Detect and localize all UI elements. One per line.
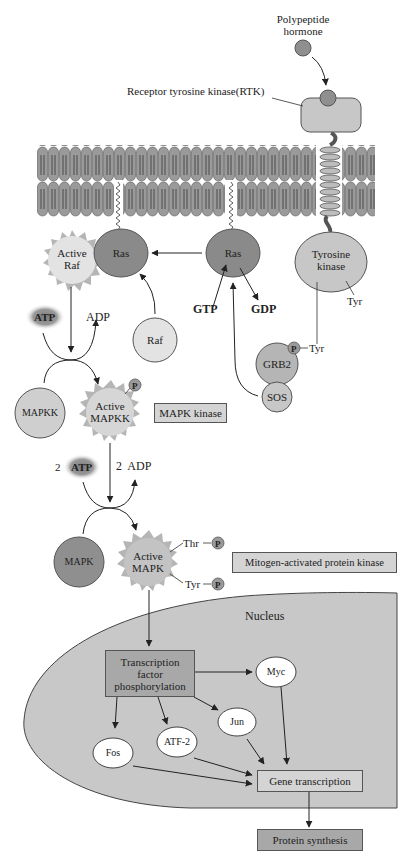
bound-hormone-icon [320, 90, 336, 106]
p-grb2-label: P [291, 343, 297, 355]
fos-label: Fos [93, 747, 133, 759]
mapk-kinase-box: MAPK kinase [154, 403, 227, 423]
jun-label: Jun [218, 716, 256, 728]
hormone-label-line1: Polypeptide [268, 13, 338, 25]
tf-line3: phosphorylation [114, 680, 186, 692]
atp-label: ATP [34, 311, 55, 323]
tyrosine-kinase-label: Tyrosine kinase [296, 248, 366, 272]
mapkk-label: MAPKK [12, 407, 68, 419]
grb2-label: GRB2 [257, 358, 297, 370]
active-mapkk-line1: Active [82, 400, 138, 412]
active-mapk-line2: MAPK [120, 562, 176, 574]
p-mapkk-label: P [132, 380, 138, 392]
protein-synthesis-box: Protein synthesis [257, 829, 363, 851]
hormone-icon [295, 40, 311, 56]
gene-transcription-box: Gene transcription [257, 770, 363, 792]
thr-label: Thr [183, 537, 199, 549]
raf-label: Raf [135, 334, 175, 346]
pathway-diagram [0, 0, 416, 867]
rtk-label: Receptor tyrosine kinase(RTK) [127, 85, 264, 97]
active-raf-line1: Active [47, 247, 97, 259]
tf-line2: factor [137, 668, 163, 680]
mapk-label: MAPK [52, 556, 106, 568]
active-mapkk-label: Active MAPKK [82, 400, 138, 424]
tf-line1: Transcription [121, 656, 180, 668]
adp-label-2: 2 ADP [116, 460, 151, 472]
tyr-label: Tyr [347, 295, 362, 307]
mitogen-box: Mitogen-activated protein kinase [232, 552, 397, 573]
rtk-transmembrane-helix [320, 133, 340, 232]
ras-left-label: Ras [96, 247, 146, 259]
active-mapk-line1: Active [120, 550, 176, 562]
tyrosine-kinase-line2: kinase [296, 260, 366, 272]
nucleus-label: Nucleus [245, 610, 284, 622]
active-mapkk-line2: MAPKK [82, 412, 138, 424]
myc-label: Myc [256, 666, 296, 678]
ras-right-label: Ras [208, 247, 258, 259]
p-tyr-label: P [215, 579, 221, 591]
hormone-label-line2: hormone [268, 25, 338, 37]
tyr-grb2-label: Tyr [309, 342, 324, 354]
active-mapk-label: Active MAPK [120, 550, 176, 574]
transcription-factor-box: Transcription factor phosphorylation [105, 650, 195, 697]
tyrosine-kinase-line1: Tyrosine [296, 248, 366, 260]
p-thr-label: P [215, 538, 221, 550]
tyr-mapk-label: Tyr [185, 578, 200, 590]
atp-label-2: ATP [71, 461, 92, 473]
atf2-label: ATF-2 [157, 736, 197, 748]
gdp-label: GDP [251, 303, 276, 315]
sos-label: SOS [257, 391, 297, 403]
active-raf-line2: Raf [47, 259, 97, 271]
two-label: 2 [55, 461, 61, 473]
gtp-label: GTP [193, 303, 218, 315]
hormone-label: Polypeptide hormone [268, 13, 338, 37]
adp-label: ADP [86, 311, 110, 323]
active-raf-label: Active Raf [47, 247, 97, 271]
